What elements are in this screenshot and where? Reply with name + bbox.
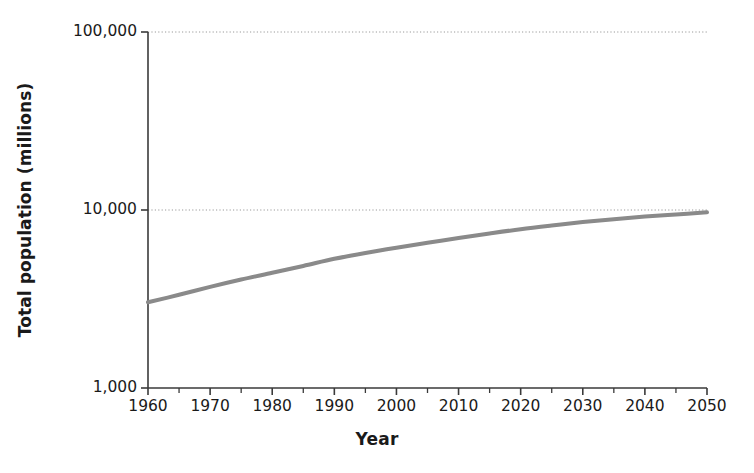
- x-tick-label: 1980: [237, 397, 307, 415]
- axis-ticks: [141, 32, 707, 395]
- x-tick-label: 2050: [672, 397, 742, 415]
- x-axis-title: Year: [0, 429, 754, 449]
- data-series-group: [148, 212, 707, 302]
- x-tick-label: 1960: [113, 397, 183, 415]
- x-tick-label: 2020: [486, 397, 556, 415]
- x-tick-label: 2010: [424, 397, 494, 415]
- y-tick-label: 1,000: [93, 378, 137, 396]
- y-tick-label: 100,000: [73, 22, 137, 40]
- x-tick-label: 2030: [548, 397, 618, 415]
- x-tick-label: 2000: [361, 397, 431, 415]
- x-tick-label: 1970: [175, 397, 245, 415]
- x-tick-label: 2040: [610, 397, 680, 415]
- chart-figure: Total population (millions) Year 100,000…: [0, 0, 754, 473]
- series-line-0: [148, 212, 707, 302]
- x-tick-label: 1990: [299, 397, 369, 415]
- gridlines-group: [148, 32, 707, 210]
- y-tick-label: 10,000: [83, 200, 137, 218]
